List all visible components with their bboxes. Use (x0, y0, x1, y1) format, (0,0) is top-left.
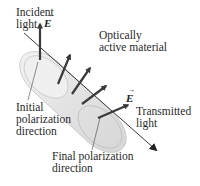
transmitted-e-vector-label: → E (126, 92, 133, 104)
final-polarization-label: Final polarization direction (52, 150, 133, 174)
incident-e-vector-label: → E (44, 17, 51, 29)
transmitted-light-label: Transmitted light (136, 105, 191, 129)
initial-polarization-label: Initial polarization direction (16, 101, 71, 137)
optical-activity-diagram: Incident light → E Optically active mate… (0, 0, 200, 186)
optically-active-material-label: Optically active material (99, 29, 167, 53)
